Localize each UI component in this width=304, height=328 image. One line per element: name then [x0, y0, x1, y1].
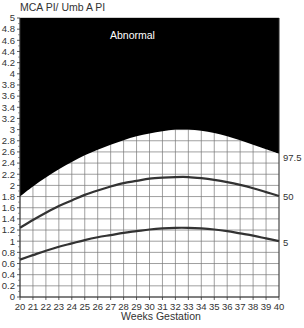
- y-tick-label: 2: [10, 180, 15, 191]
- y-tick-label: 0.2: [2, 280, 15, 291]
- y-tick-label: 1.6: [2, 202, 15, 213]
- chart-plot: 00.20.40.60.811.21.41.61.822.22.42.62.83…: [0, 0, 304, 328]
- y-tick-label: 1.4: [2, 213, 15, 224]
- series-label-5: 5: [283, 237, 288, 248]
- y-tick-label: 2.4: [2, 157, 15, 168]
- y-tick-label: 3.6: [2, 90, 15, 101]
- y-tick-label: 4.4: [2, 46, 15, 57]
- y-tick-label: 1: [10, 236, 15, 247]
- y-tick-label: 0.6: [2, 258, 15, 269]
- y-tick-label: 3.2: [2, 113, 15, 124]
- y-tick-label: 1.8: [2, 191, 15, 202]
- y-tick-label: 3.8: [2, 79, 15, 90]
- y-tick-label: 4: [10, 68, 15, 79]
- y-tick-label: 5: [10, 12, 15, 23]
- y-tick-label: 4.6: [2, 35, 15, 46]
- abnormal-label: Abnormal: [110, 29, 155, 41]
- y-tick-label: 3: [10, 124, 15, 135]
- y-tick-label: 4.8: [2, 23, 15, 34]
- y-tick-label: 0.8: [2, 247, 15, 258]
- y-tick-label: 2.8: [2, 135, 15, 146]
- y-tick-label: 0.4: [2, 269, 15, 280]
- y-tick-label: 3.4: [2, 102, 15, 113]
- y-tick-label: 2.6: [2, 146, 15, 157]
- y-tick-label: 4.2: [2, 57, 15, 68]
- x-axis-title: Weeks Gestation: [0, 310, 304, 322]
- y-tick-label: 1.2: [2, 224, 15, 235]
- series-label-50: 50: [283, 191, 294, 202]
- series-label-97-5: 97.5: [283, 152, 302, 163]
- y-tick-label: 2.2: [2, 169, 15, 180]
